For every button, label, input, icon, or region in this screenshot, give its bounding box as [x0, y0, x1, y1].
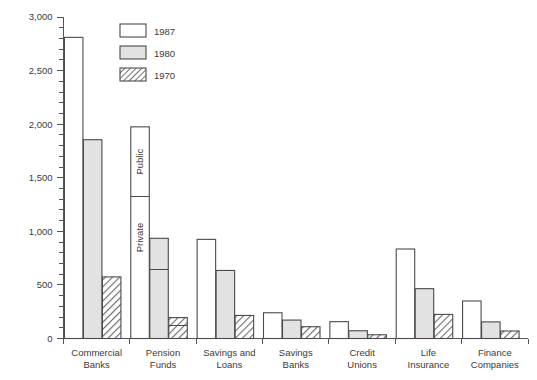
- x-axis-category-labels: CommercialBanksPensionFundsSavings andLo…: [71, 347, 519, 370]
- bar: [169, 318, 188, 339]
- bar: [368, 335, 387, 339]
- y-tick-label: 1,500: [29, 172, 53, 183]
- category-label-line: Life: [421, 347, 436, 358]
- bar: [463, 301, 482, 339]
- category-label-line: Unions: [347, 359, 377, 370]
- legend-swatch: [120, 46, 146, 59]
- pension-public-label: Public: [134, 148, 145, 174]
- bar: [330, 322, 349, 339]
- bar: [216, 270, 235, 338]
- bar-chart: 05001,0001,5002,0002,5003,000 PublicPriv…: [0, 0, 537, 380]
- category-label-line: Finance: [478, 347, 512, 358]
- bar: [150, 238, 169, 338]
- legend-swatch: [120, 24, 146, 37]
- y-tick-label: 500: [37, 279, 53, 290]
- category-label-line: Commercial: [71, 347, 122, 358]
- bar: [102, 277, 121, 339]
- y-tick-label: 3,000: [29, 11, 53, 22]
- category-label-line: Credit: [349, 347, 375, 358]
- x-axis-tick-marks: [64, 339, 529, 344]
- category-label-line: Funds: [150, 359, 177, 370]
- legend-swatch: [120, 68, 146, 81]
- bar: [501, 331, 520, 339]
- bar: [434, 314, 453, 338]
- bar: [197, 239, 216, 338]
- bar: [415, 289, 434, 339]
- category-label-line: Savings: [279, 347, 313, 358]
- category-label-line: Loans: [216, 359, 242, 370]
- y-tick-label: 2,500: [29, 65, 53, 76]
- y-axis-major-ticks: [57, 17, 64, 339]
- category-label-line: Savings and: [203, 347, 255, 358]
- bar: [482, 322, 501, 339]
- pension-private-label: Private: [134, 223, 145, 253]
- bar: [302, 327, 321, 339]
- legend-label: 1970: [154, 70, 175, 81]
- bar: [83, 140, 102, 339]
- legend-label: 1987: [154, 26, 175, 37]
- category-label-line: Banks: [283, 359, 310, 370]
- bar: [264, 313, 283, 339]
- bar: [64, 37, 83, 338]
- legend: 198719801970: [120, 24, 175, 81]
- bars-layer: [64, 37, 519, 338]
- category-label-line: Pension: [146, 347, 180, 358]
- y-axis-tick-labels: 05001,0001,5002,0002,5003,000: [29, 11, 53, 344]
- bar: [235, 315, 254, 338]
- y-tick-label: 1,000: [29, 226, 53, 237]
- category-label-line: Companies: [471, 359, 519, 370]
- bar: [283, 320, 302, 338]
- legend-label: 1980: [154, 48, 175, 59]
- y-tick-label: 2,000: [29, 119, 53, 130]
- category-label-line: Insurance: [408, 359, 450, 370]
- y-tick-label: 0: [47, 333, 52, 344]
- bar: [349, 331, 368, 339]
- bar: [396, 249, 415, 338]
- category-label-line: Banks: [83, 359, 110, 370]
- chart-canvas: 05001,0001,5002,0002,5003,000 PublicPriv…: [0, 0, 537, 380]
